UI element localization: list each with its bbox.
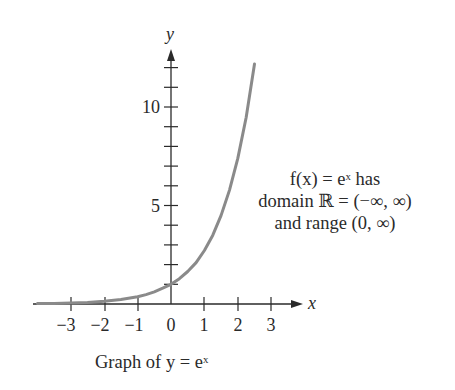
annotation-line-3: and range (0, ∞) xyxy=(230,212,440,234)
x-tick-label: −1 xyxy=(124,315,143,335)
figure-caption: Graph of y = eˣ xyxy=(95,352,208,373)
x-axis-arrow-icon xyxy=(291,300,303,308)
x-tick-label: 1 xyxy=(200,315,209,335)
y-tick-label: 5 xyxy=(151,196,160,216)
x-axis-label: x xyxy=(307,293,316,313)
x-tick-labels: −3 −2 −1 0 1 2 3 xyxy=(56,315,275,335)
caption-text: Graph of y = eˣ xyxy=(95,352,208,372)
x-tick-label: 0 xyxy=(167,315,176,335)
y-axis-arrow-icon xyxy=(167,49,175,61)
y-axis-label: y xyxy=(164,24,174,44)
x-tick-label: 3 xyxy=(267,315,276,335)
y-tick-label: 10 xyxy=(142,97,160,117)
x-tick-label: 2 xyxy=(234,315,243,335)
domain-range-annotation: f(x) = eˣ has domain ℝ = (−∞, ∞) and ran… xyxy=(230,168,440,234)
x-tick-label: −2 xyxy=(90,315,109,335)
y-tick-labels: 5 10 xyxy=(142,97,160,216)
x-tick-label: −3 xyxy=(56,315,75,335)
annotation-line-2: domain ℝ = (−∞, ∞) xyxy=(230,190,440,212)
annotation-line-1: f(x) = eˣ has xyxy=(230,168,440,190)
